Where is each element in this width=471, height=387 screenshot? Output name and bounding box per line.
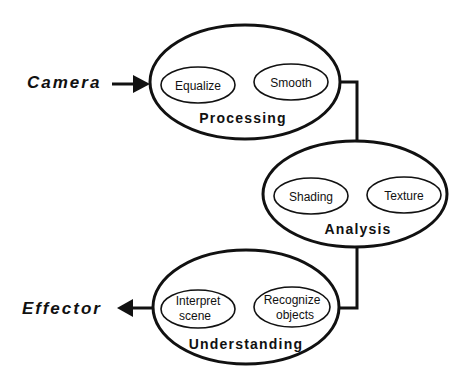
interpret-scene-label-line1: Interpret [176,294,221,308]
effector-arrowhead-icon [117,299,133,317]
connector-analysis-understanding [340,247,357,308]
vision-pipeline-diagram: Camera Equalize Smooth Processing Shadin… [0,0,471,387]
analysis-stage: Shading Texture Analysis [263,141,447,247]
interpret-scene-label-line2: scene [179,309,211,323]
processing-label: Processing [199,110,286,126]
camera-label: Camera [27,73,101,92]
processing-stage: Equalize Smooth Processing [150,25,340,139]
smooth-label: Smooth [270,76,311,90]
connector-processing-analysis [338,82,357,141]
recognize-objects-label-line1: Recognize [264,293,321,307]
recognize-objects-label-line2: objects [276,308,314,322]
shading-label: Shading [289,190,333,204]
equalize-label: Equalize [175,79,221,93]
camera-arrowhead-icon [133,75,150,93]
understanding-stage: Interpret scene Recognize objects Unders… [153,250,339,364]
analysis-label: Analysis [324,221,391,237]
understanding-label: Understanding [189,336,303,352]
effector-label: Effector [22,299,102,318]
texture-label: Texture [384,189,424,203]
